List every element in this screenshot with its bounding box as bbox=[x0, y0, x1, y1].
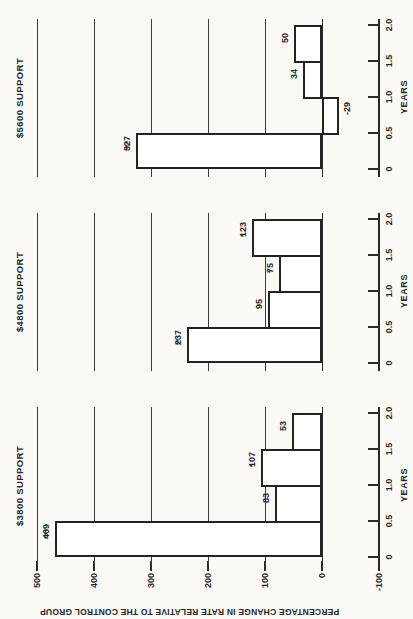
x-axis-tick bbox=[368, 412, 380, 414]
x-axis-tick bbox=[368, 24, 380, 26]
gridline bbox=[151, 213, 152, 371]
y-axis-tick-label: 100 bbox=[260, 573, 271, 617]
bar bbox=[292, 413, 322, 451]
bar-value-label: 53 bbox=[278, 388, 289, 474]
x-axis-line bbox=[378, 19, 380, 177]
gridline bbox=[94, 19, 95, 177]
panel-title: $3800 SUPPORT bbox=[14, 407, 26, 565]
y-axis-tick-label: -100 bbox=[374, 573, 385, 617]
x-axis-tick-label: 0 bbox=[384, 155, 394, 183]
x-axis-tick bbox=[368, 168, 380, 170]
x-axis-tick bbox=[368, 290, 380, 292]
bar-value-label: 469*** bbox=[41, 496, 52, 582]
zero-gridline bbox=[322, 407, 323, 565]
zero-gridline bbox=[322, 213, 323, 371]
x-axis-tick bbox=[368, 556, 380, 558]
significance-stars: ** bbox=[173, 338, 184, 345]
x-axis-tick-label: 1.5 bbox=[384, 241, 394, 269]
gridline bbox=[37, 407, 38, 565]
x-axis-tick-label: 0 bbox=[384, 543, 394, 571]
bar bbox=[275, 485, 322, 523]
x-axis-tick-label: 1.5 bbox=[384, 47, 394, 75]
x-axis-tick-label: 0.5 bbox=[384, 507, 394, 535]
x-axis-tick-label: 1.0 bbox=[384, 83, 394, 111]
y-axis-title: PERCENTAGE CHANGE IN RATE RELATIVE TO TH… bbox=[40, 606, 340, 617]
x-axis-title: YEARS bbox=[399, 67, 409, 127]
bar bbox=[322, 97, 339, 135]
x-axis-tick bbox=[368, 218, 380, 220]
x-axis-tick-label: 0 bbox=[384, 349, 394, 377]
x-axis-tick-label: 0.5 bbox=[384, 313, 394, 341]
panel-title: $4800 SUPPORT bbox=[14, 213, 26, 371]
x-axis-title: YEARS bbox=[399, 261, 409, 321]
x-axis-tick bbox=[368, 96, 380, 98]
chart-figure: PERCENTAGE CHANGE IN RATE RELATIVE TO TH… bbox=[0, 0, 413, 619]
x-axis-tick bbox=[368, 448, 380, 450]
bar-value-text: 83 bbox=[261, 493, 272, 503]
x-axis-tick bbox=[368, 254, 380, 256]
bar-value-text: 95 bbox=[254, 299, 265, 309]
x-axis-tick bbox=[368, 326, 380, 328]
rotated-chart-canvas: PERCENTAGE CHANGE IN RATE RELATIVE TO TH… bbox=[0, 0, 413, 619]
significance-stars: * bbox=[265, 269, 276, 273]
x-axis-line bbox=[378, 213, 380, 371]
bar-value-label: 95 bbox=[254, 266, 265, 352]
significance-stars: * bbox=[238, 233, 249, 237]
bar-value-text: 50 bbox=[280, 33, 291, 43]
x-axis-tick-label: 2.0 bbox=[384, 399, 394, 427]
x-axis-tick bbox=[368, 520, 380, 522]
bar-value-label: 327*** bbox=[122, 108, 133, 194]
x-axis-tick bbox=[368, 362, 380, 364]
panel-title: $5600 SUPPORT bbox=[14, 19, 26, 177]
y-axis-tick-label: 400 bbox=[89, 573, 100, 617]
y-axis-tick-label: 200 bbox=[203, 573, 214, 617]
bar-value-text: 53 bbox=[278, 421, 289, 431]
bar-value-text: -29 bbox=[342, 102, 353, 115]
gridline bbox=[37, 19, 38, 177]
x-axis-tick bbox=[368, 132, 380, 134]
y-axis-tick-label: 0 bbox=[317, 573, 328, 617]
bar bbox=[136, 133, 322, 169]
gridline bbox=[37, 213, 38, 371]
x-axis-tick-label: 1.0 bbox=[384, 277, 394, 305]
bar bbox=[279, 255, 322, 293]
bar bbox=[55, 521, 322, 557]
x-axis-tick-label: 0.5 bbox=[384, 119, 394, 147]
bar-value-label: 237** bbox=[173, 302, 184, 388]
x-axis-title: YEARS bbox=[399, 455, 409, 515]
x-axis-tick-label: 2.0 bbox=[384, 11, 394, 39]
bar bbox=[294, 25, 323, 63]
significance-stars: *** bbox=[122, 140, 133, 151]
bar bbox=[261, 449, 322, 487]
bar-value-label: 123* bbox=[238, 194, 249, 280]
x-axis-tick bbox=[368, 60, 380, 62]
x-axis-tick-label: 1.5 bbox=[384, 435, 394, 463]
significance-stars: *** bbox=[41, 528, 52, 539]
bar bbox=[252, 219, 322, 257]
x-axis-tick bbox=[368, 484, 380, 486]
x-axis-tick-label: 1.0 bbox=[384, 471, 394, 499]
bar-value-label: 107* bbox=[247, 424, 258, 510]
significance-stars: * bbox=[247, 463, 258, 467]
y-axis-tick-label: 300 bbox=[146, 573, 157, 617]
gridline bbox=[94, 213, 95, 371]
x-axis-tick-label: 2.0 bbox=[384, 205, 394, 233]
bar-value-label: -29 bbox=[342, 72, 353, 158]
bar bbox=[303, 61, 322, 99]
bar-value-label: 50 bbox=[280, 0, 291, 86]
x-axis-line bbox=[378, 407, 380, 565]
